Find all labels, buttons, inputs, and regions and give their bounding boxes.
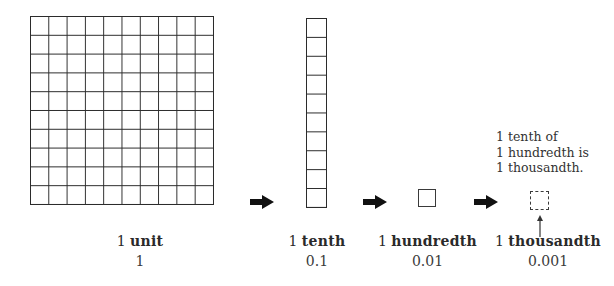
value-unit: 1: [100, 253, 180, 269]
hundredth-square: [418, 189, 436, 207]
label-unit: 1 unit: [100, 233, 180, 249]
arrow-right-icon: [474, 195, 498, 209]
arrow-right-icon: [250, 195, 274, 209]
annotation-note: 1 tenth of 1 hundredth is 1 thousandth.: [496, 129, 589, 176]
label-tenth: 1 tenth: [272, 233, 362, 249]
unit-grid: [30, 16, 214, 205]
arrow-right-icon: [363, 195, 387, 209]
note-line: 1 thousandth.: [496, 160, 589, 176]
label-thousandth: 1 thousandth: [488, 233, 608, 249]
value-thousandth: 0.001: [488, 253, 608, 269]
thousandth-dashed-square: [530, 191, 549, 210]
value-hundredth: 0.01: [370, 253, 485, 269]
label-hundredth: 1 hundredth: [370, 233, 485, 249]
note-line: 1 hundredth is: [496, 145, 589, 161]
value-tenth: 0.1: [272, 253, 362, 269]
tenth-strip: [306, 18, 327, 208]
note-line: 1 tenth of: [496, 129, 589, 145]
